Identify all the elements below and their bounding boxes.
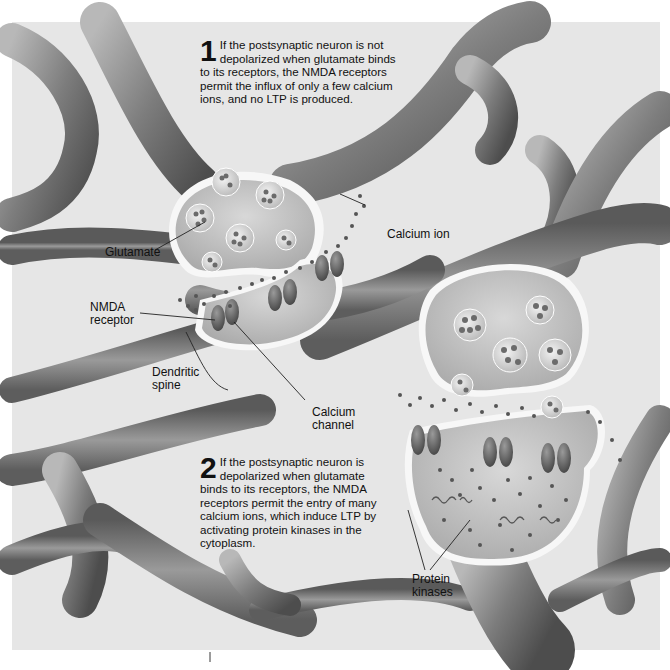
label-protein-kinases: Protein kinases <box>412 573 453 599</box>
label-glutamate: Glutamate <box>105 246 160 259</box>
label-calcium-channel: Calcium channel <box>312 406 355 432</box>
label-calcium-ion: Calcium ion <box>387 228 450 241</box>
label-nmda-receptor: NMDA receptor <box>90 301 134 327</box>
step-2-number: 2 <box>200 455 217 481</box>
step-2-description: 2 If the postsynaptic neuron is depolari… <box>200 455 430 550</box>
label-dendritic-spine: Dendritic spine <box>152 366 199 392</box>
step-1-description: 1 If the postsynaptic neuron is not depo… <box>200 38 430 106</box>
step-1-number: 1 <box>200 38 217 64</box>
